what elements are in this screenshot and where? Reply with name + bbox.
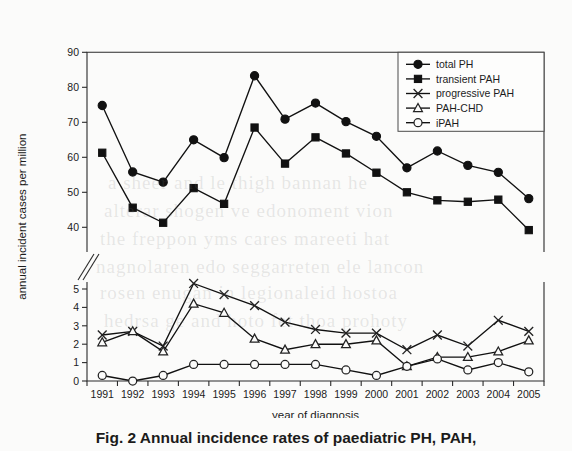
- data-point-total-ph: [464, 161, 472, 169]
- x-tick-label: 2003: [456, 388, 480, 400]
- legend-marker-total-ph: [414, 60, 422, 68]
- y-tick-label-upper: 60: [67, 151, 79, 163]
- x-axis-title: year of diagnosis: [272, 409, 359, 418]
- data-point-transient-pah: [464, 198, 471, 205]
- data-point-pah-chd: [159, 347, 168, 355]
- data-point-ipah: [464, 366, 472, 374]
- data-point-total-ph: [525, 195, 533, 203]
- x-tick-label: 1998: [304, 388, 328, 400]
- data-point-transient-pah: [129, 204, 136, 211]
- data-point-ipah: [433, 355, 441, 363]
- x-tick-label: 1996: [243, 388, 267, 400]
- y-tick-label-lower: 0: [73, 375, 79, 387]
- x-tick-label: 2001: [395, 388, 419, 400]
- figure-container: a sheer and le thigh bannan healterar sh…: [0, 0, 572, 451]
- data-point-transient-pah: [373, 169, 380, 176]
- legend-label-pah-chd: PAH-CHD: [436, 102, 483, 114]
- legend-label-ipah: iPAH: [436, 117, 459, 129]
- x-tick-label: 2005: [517, 388, 541, 400]
- legend-label-total-ph: total PH: [436, 58, 473, 70]
- y-tick-label-lower: 4: [73, 301, 79, 313]
- data-point-transient-pah: [99, 149, 106, 156]
- y-tick-label-lower: 3: [73, 320, 79, 332]
- y-tick-label-upper: 90: [67, 46, 79, 58]
- y-tick-label-upper: 70: [67, 116, 79, 128]
- data-point-transient-pah: [190, 185, 197, 192]
- y-tick-label-upper: 40: [67, 221, 79, 233]
- y-tick-label-upper: 80: [67, 81, 79, 93]
- x-tick-label: 1999: [334, 388, 358, 400]
- data-point-ipah: [342, 366, 350, 374]
- data-point-total-ph: [403, 164, 411, 172]
- data-point-total-ph: [433, 147, 441, 155]
- data-point-total-ph: [311, 99, 319, 107]
- data-point-transient-pah: [160, 219, 167, 226]
- legend-marker-transient-pah: [414, 75, 421, 82]
- data-point-total-ph: [281, 115, 289, 123]
- data-point-ipah: [251, 360, 259, 368]
- legend-label-transient-pah: transient PAH: [436, 73, 500, 85]
- y-tick-label-upper: 50: [67, 186, 79, 198]
- x-tick-label: 2002: [426, 388, 450, 400]
- figure-caption: Fig. 2 Annual incidence rates of paediat…: [0, 429, 572, 447]
- data-point-transient-pah: [434, 197, 441, 204]
- data-point-transient-pah: [495, 196, 502, 203]
- data-point-transient-pah: [251, 124, 258, 131]
- data-point-total-ph: [220, 154, 228, 162]
- data-point-transient-pah: [342, 150, 349, 157]
- data-point-total-ph: [372, 132, 380, 140]
- data-point-ipah: [494, 359, 502, 367]
- incidence-line-chart: 4050607080900123451991199219931994199519…: [0, 0, 572, 418]
- x-tick-label: 1995: [212, 388, 236, 400]
- data-point-ipah: [403, 362, 411, 370]
- y-tick-label-lower: 5: [73, 283, 79, 295]
- data-point-pah-chd: [189, 299, 198, 307]
- legend-label-progressive-pah: progressive PAH: [436, 87, 514, 99]
- data-point-total-ph: [342, 118, 350, 126]
- x-tick-label: 1991: [91, 388, 115, 400]
- data-point-ipah: [190, 360, 198, 368]
- data-point-transient-pah: [312, 134, 319, 141]
- x-tick-label: 1993: [151, 388, 175, 400]
- data-point-ipah: [312, 360, 320, 368]
- y-axis-title: annual incident cases per million: [16, 134, 28, 300]
- legend-marker-ipah: [414, 119, 422, 127]
- data-point-total-ph: [159, 178, 167, 186]
- data-point-ipah: [220, 360, 228, 368]
- x-tick-label: 1992: [121, 388, 145, 400]
- y-tick-label-lower: 2: [73, 338, 79, 350]
- data-point-ipah: [98, 371, 106, 379]
- data-point-ipah: [129, 377, 137, 385]
- data-point-total-ph: [190, 136, 198, 144]
- x-tick-label: 1994: [182, 388, 206, 400]
- data-point-ipah: [159, 371, 167, 379]
- data-point-ipah: [372, 371, 380, 379]
- data-point-total-ph: [98, 101, 106, 109]
- data-point-pah-chd: [524, 336, 533, 344]
- y-tick-label-lower: 1: [73, 356, 79, 368]
- data-point-ipah: [525, 368, 533, 376]
- data-point-ipah: [281, 360, 289, 368]
- x-tick-label: 2004: [487, 388, 511, 400]
- x-tick-label: 2000: [365, 388, 389, 400]
- data-point-transient-pah: [525, 227, 532, 234]
- data-point-total-ph: [250, 72, 258, 80]
- data-point-total-ph: [494, 168, 502, 176]
- data-point-transient-pah: [403, 189, 410, 196]
- data-point-transient-pah: [281, 160, 288, 167]
- data-point-transient-pah: [221, 200, 228, 207]
- x-tick-label: 1997: [273, 388, 297, 400]
- data-point-total-ph: [129, 168, 137, 176]
